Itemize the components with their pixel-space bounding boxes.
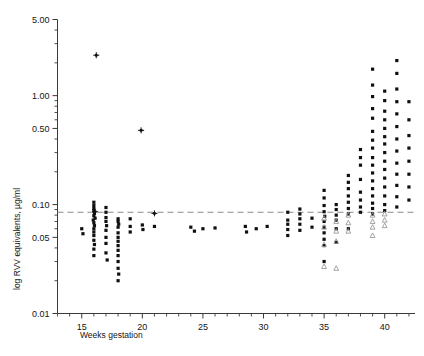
data-point [116, 226, 119, 229]
data-point [104, 229, 107, 232]
data-point [371, 194, 374, 197]
data-point [407, 185, 410, 188]
data-point [106, 258, 109, 261]
data-point [347, 181, 350, 184]
data-point [116, 260, 119, 263]
data-point [193, 230, 196, 233]
x-axis-major-ticks [82, 314, 385, 319]
data-point [371, 83, 374, 86]
data-point [93, 243, 96, 246]
data-point [129, 217, 132, 220]
data-point [323, 189, 326, 192]
data-point [93, 224, 96, 227]
data-point [371, 107, 374, 110]
data-point [104, 206, 107, 209]
data-point [383, 151, 386, 154]
data-point [310, 226, 313, 229]
data-point [407, 173, 410, 176]
data-point [395, 125, 398, 128]
x-tick-label: 25 [198, 322, 208, 332]
series-cross-marker [92, 52, 157, 216]
data-point [347, 187, 350, 190]
data-point [347, 194, 350, 197]
y-axis-title: log RVV equivalents, µg/ml [12, 188, 22, 290]
data-point [244, 225, 247, 228]
y-tick-label: 0.01 [32, 309, 50, 319]
data-point [395, 100, 398, 103]
y-tick-label: 1.00 [32, 91, 50, 101]
data-point [116, 220, 119, 223]
data-point [371, 139, 374, 142]
data-point-cross [93, 52, 99, 58]
y-tick-label: 0.50 [32, 124, 50, 134]
data-point [323, 210, 326, 213]
data-point [189, 226, 192, 229]
data-point [201, 227, 204, 230]
data-point [286, 234, 289, 237]
data-point [213, 226, 216, 229]
data-point [371, 117, 374, 120]
data-point [117, 223, 120, 226]
data-point [383, 203, 386, 206]
data-point [371, 146, 374, 149]
data-point [371, 202, 374, 205]
data-point [359, 211, 362, 214]
data-point-open [346, 220, 351, 225]
data-point [383, 118, 386, 121]
data-point [395, 137, 398, 140]
data-point [371, 95, 374, 98]
data-point [323, 260, 326, 263]
data-point [371, 187, 374, 190]
scatter-plot-figure: 5.001.000.500.100.050.01 152025303540 We… [0, 0, 424, 356]
data-point [395, 173, 398, 176]
data-point [395, 184, 398, 187]
data-point [286, 223, 289, 226]
data-point [286, 211, 289, 214]
data-point-cross [138, 127, 144, 133]
data-point [335, 208, 338, 211]
data-point [335, 214, 338, 217]
data-point [80, 227, 83, 230]
x-tick-label: 35 [319, 322, 329, 332]
y-axis-major-ticks [53, 20, 58, 314]
data-series-layer [80, 52, 410, 282]
data-point [383, 168, 386, 171]
x-tick-label: 30 [259, 322, 269, 332]
data-point [255, 227, 258, 230]
data-point [395, 205, 398, 208]
data-point [383, 142, 386, 145]
data-point [323, 231, 326, 234]
data-point [395, 162, 398, 165]
data-point [116, 244, 119, 247]
data-point [383, 177, 386, 180]
data-point [92, 221, 95, 224]
data-point [298, 217, 301, 220]
data-point [383, 110, 386, 113]
data-point [116, 240, 119, 243]
data-point [286, 219, 289, 222]
data-point [104, 220, 107, 223]
data-point [116, 249, 119, 252]
data-point [383, 99, 386, 102]
data-point [371, 156, 374, 159]
data-point [407, 198, 410, 201]
data-point [395, 149, 398, 152]
data-point [347, 201, 350, 204]
data-point [116, 254, 119, 257]
data-point [371, 207, 374, 210]
data-point [298, 223, 301, 226]
series-open-triangle [322, 211, 387, 270]
data-point [298, 207, 301, 210]
data-point [347, 174, 350, 177]
data-point [310, 217, 313, 220]
data-point [395, 59, 398, 62]
data-point [359, 198, 362, 201]
data-point [129, 225, 132, 228]
data-point [347, 207, 350, 210]
data-point [104, 216, 107, 219]
data-point [407, 134, 410, 137]
data-point [407, 100, 410, 103]
data-point-open [370, 233, 375, 238]
data-point-open [382, 218, 387, 223]
data-point [129, 230, 132, 233]
